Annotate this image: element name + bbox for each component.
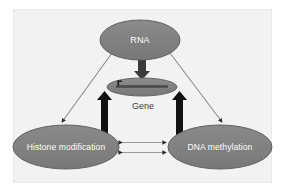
node-dna-methylation[interactable] (168, 125, 272, 169)
diagram-graphic (0, 0, 289, 191)
node-rna[interactable] (100, 20, 180, 60)
figure-canvas: RNA Gene Histone modification DNA methyl… (0, 0, 289, 191)
edge-rna-to-gene (134, 60, 150, 80)
node-label-gene: Gene (113, 101, 173, 111)
node-histone-modification[interactable] (13, 125, 119, 169)
